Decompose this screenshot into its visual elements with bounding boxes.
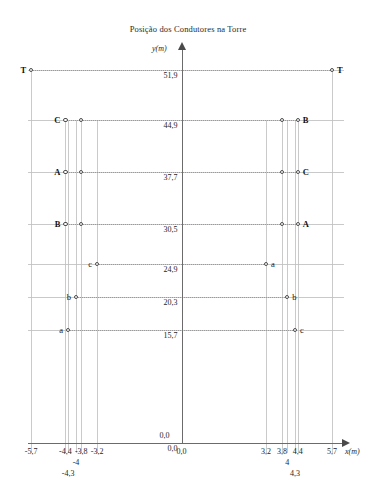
x-tick-label: -4,3 xyxy=(53,469,83,478)
marker-label-b-left: b xyxy=(67,292,71,302)
x-axis-title: x(m) xyxy=(345,447,360,456)
y-tick-label: 51,9 xyxy=(138,71,178,80)
marker-label-T-left: T xyxy=(20,65,26,75)
marker-label-b-right: b xyxy=(292,292,296,302)
marker-A-left-inner xyxy=(79,170,83,174)
x-axis-line xyxy=(28,443,344,444)
y-tick-label: 37,7 xyxy=(138,173,178,182)
marker-label-a-left: a xyxy=(59,325,63,335)
y-tick-label: 30,5 xyxy=(138,225,178,234)
vertical-gridline xyxy=(266,120,267,453)
marker-A-left-outer xyxy=(63,170,67,174)
x-tick-label: 0,0 xyxy=(167,447,197,456)
marker-T-right xyxy=(330,68,334,72)
x-tick-label: -3,2 xyxy=(82,447,112,456)
vertical-gridline xyxy=(287,120,288,453)
marker-label-a-right: a xyxy=(271,259,275,269)
marker-label-C-right-outer: C xyxy=(303,167,309,177)
chart-figure: Posição dos Condutores na Torre y(m) x(m… xyxy=(0,0,376,501)
x-tick-label: 5,7 xyxy=(317,447,347,456)
marker-label-B-left-outer: B xyxy=(55,219,61,229)
vertical-gridline xyxy=(68,120,69,453)
marker-B-left-outer xyxy=(63,222,67,226)
marker-c-left xyxy=(95,262,99,266)
y-axis-title: y(m) xyxy=(152,44,167,53)
marker-A-right-inner xyxy=(280,222,284,226)
marker-C-right-outer xyxy=(296,170,300,174)
marker-T-left xyxy=(29,68,33,72)
plot-area: y(m) x(m) 51,944,937,730,524,920,315,70,… xyxy=(0,0,376,501)
marker-C-left-inner xyxy=(79,118,83,122)
y-axis-arrow-icon xyxy=(178,42,186,50)
x-tick-label: -5,7 xyxy=(16,447,46,456)
marker-C-right-inner xyxy=(280,170,284,174)
marker-label-c-left: c xyxy=(88,259,92,269)
y-tick-label: 20,3 xyxy=(138,298,178,307)
marker-label-c-right: c xyxy=(300,325,304,335)
marker-label-A-right-outer: A xyxy=(303,219,309,229)
marker-c-right xyxy=(293,328,297,332)
y-tick-label: 24,9 xyxy=(138,265,178,274)
x-tick-label: 4,4 xyxy=(283,447,313,456)
x-tick-label: 4 xyxy=(272,458,302,467)
y-tick-label: 44,9 xyxy=(138,121,178,130)
marker-B-left-inner xyxy=(79,222,83,226)
y-tick-label: 15,7 xyxy=(138,331,178,340)
y-axis-line xyxy=(182,48,183,443)
marker-a-left xyxy=(66,328,70,332)
marker-label-T-right: T xyxy=(337,65,343,75)
origin-label: 0,0 xyxy=(150,431,180,440)
marker-B-right-inner xyxy=(280,118,284,122)
marker-b-left xyxy=(74,295,78,299)
vertical-gridline xyxy=(31,70,32,453)
marker-b-right xyxy=(285,295,289,299)
x-axis-arrow-icon xyxy=(342,439,350,447)
marker-B-right-outer xyxy=(296,118,300,122)
vertical-gridline xyxy=(76,120,77,453)
vertical-gridline xyxy=(97,120,98,453)
marker-C-left-outer xyxy=(63,118,67,122)
vertical-gridline xyxy=(332,70,333,453)
marker-A-right-outer xyxy=(296,222,300,226)
marker-label-A-left-outer: A xyxy=(54,167,60,177)
marker-a-right xyxy=(264,262,268,266)
x-tick-label: -4 xyxy=(61,458,91,467)
marker-label-C-left-outer: C xyxy=(54,115,60,125)
marker-label-B-right-outer: B xyxy=(303,115,309,125)
x-tick-label: 4,3 xyxy=(280,469,310,478)
